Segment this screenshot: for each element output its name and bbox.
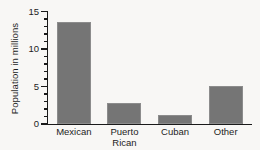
y-tick-major [41, 48, 48, 49]
y-tick-minor [44, 108, 48, 109]
x-category-label-line: Puerto [99, 127, 150, 138]
bar-chart-figure: Population in millions 051015 MexicanPue… [0, 0, 260, 150]
x-category-label-line: Mexican [49, 127, 100, 138]
x-category-label-line: Rican [99, 138, 150, 149]
bar [209, 86, 243, 124]
y-tick-major [41, 123, 48, 124]
y-tick-minor [44, 71, 48, 72]
y-tick-minor [44, 116, 48, 117]
x-category-label: Mexican [49, 127, 100, 138]
y-tick-minor [44, 93, 48, 94]
y-tick-minor [44, 41, 48, 42]
x-category-label-line: Cuban [150, 127, 201, 138]
y-tick-minor [44, 18, 48, 19]
y-tick-label-text: 5 [34, 81, 39, 92]
y-tick-minor [44, 33, 48, 34]
y-tick-minor [44, 78, 48, 79]
x-category-label: Other [200, 127, 251, 138]
x-category-label-line: Other [200, 127, 251, 138]
y-tick-minor [44, 101, 48, 102]
y-tick-minor [44, 26, 48, 27]
y-axis-title: Population in millions [9, 11, 20, 127]
y-tick-minor [44, 56, 48, 57]
bar [57, 22, 91, 124]
bar [107, 103, 141, 124]
y-tick-label-text: 15 [28, 6, 39, 17]
y-tick-minor [44, 63, 48, 64]
y-tick-major [41, 86, 48, 87]
y-tick-major [41, 11, 48, 12]
x-category-label: PuertoRican [99, 127, 150, 148]
y-tick-label-text: 0 [34, 118, 39, 129]
x-category-label: Cuban [150, 127, 201, 138]
y-tick-label-text: 10 [28, 43, 39, 54]
bar [158, 115, 192, 124]
